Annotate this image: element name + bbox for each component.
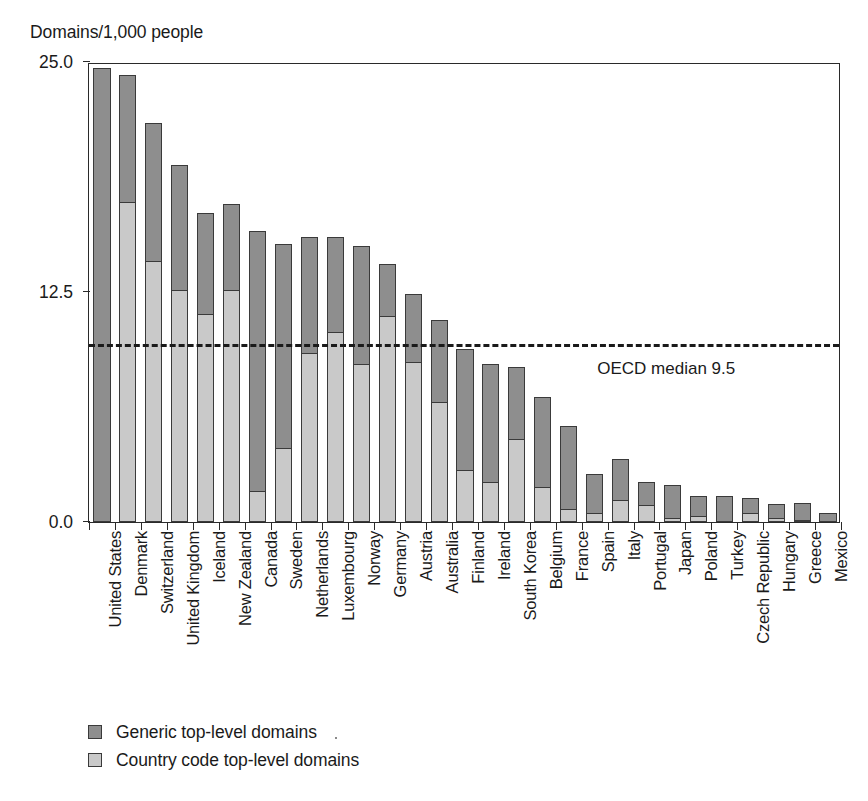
bar-segment-gtld [664, 485, 681, 518]
bar-ireland [482, 364, 499, 522]
x-tick-4 [193, 522, 194, 530]
bar-segment-cctld [171, 290, 188, 522]
x-axis-label-norway: Norway [366, 531, 383, 586]
x-tick-1 [115, 522, 116, 530]
x-tick-13 [426, 522, 427, 530]
bar-segment-cctld [586, 513, 603, 522]
bar-hungary [768, 504, 785, 522]
bar-greece [794, 503, 811, 522]
x-tick-24 [711, 522, 712, 530]
bar-segment-cctld [534, 487, 551, 522]
x-axis-label-text: Czech Republic [755, 531, 772, 644]
x-axis-label-belgium: Belgium [548, 531, 565, 589]
bar-segment-gtld [716, 496, 733, 522]
x-axis-label-text: Norway [366, 531, 383, 586]
bar-segment-gtld [586, 474, 603, 513]
x-axis-label-new-zealand: New Zealand [237, 531, 254, 626]
x-tick-27 [789, 522, 790, 530]
x-tick-25 [737, 522, 738, 530]
x-axis-label-turkey: Turkey [729, 531, 746, 580]
chart-legend: Generic top-level domains Country code t… [88, 718, 359, 774]
x-axis-label-text: United Kingdom [185, 531, 202, 646]
bar-france [560, 426, 577, 522]
bar-turkey [716, 496, 733, 522]
x-tick-6 [245, 522, 246, 530]
bar-segment-gtld [119, 75, 136, 202]
x-axis-label-text: Greece [807, 531, 824, 584]
x-axis-label-text: France [574, 531, 591, 581]
bar-south-korea [508, 367, 525, 522]
x-axis-label-italy: Italy [626, 531, 643, 560]
x-axis-label-hungary: Hungary [781, 531, 798, 592]
legend-swatch-cctld-icon [88, 753, 102, 767]
x-axis-label-text: Japan [677, 531, 694, 575]
x-axis-label-text: United States [107, 531, 124, 627]
bar-segment-gtld [145, 123, 162, 261]
bar-segment-cctld [638, 505, 655, 522]
x-axis-label-text: Netherlands [314, 531, 331, 618]
oecd-median-label: OECD median 9.5 [597, 359, 735, 379]
bar-segment-cctld [327, 332, 344, 522]
x-axis-label-canada: Canada [263, 531, 280, 588]
bar-united-states [93, 68, 110, 522]
bar-luxembourg [327, 237, 344, 522]
x-tick-26 [763, 522, 764, 530]
x-axis-label-text: Finland [470, 531, 487, 584]
x-axis-label-netherlands: Netherlands [314, 531, 331, 618]
x-axis-label-text: Australia [444, 531, 461, 593]
x-tick-10 [348, 522, 349, 530]
legend-swatch-gtld-icon [88, 725, 102, 739]
x-axis-label-south-korea: South Korea [522, 531, 539, 621]
x-tick-21 [634, 522, 635, 530]
bar-segment-cctld [431, 402, 448, 522]
x-axis-label-czech-republic: Czech Republic [755, 531, 772, 644]
x-axis-label-text: South Korea [522, 531, 539, 621]
x-axis-label-text: Belgium [548, 531, 565, 589]
bar-segment-cctld [145, 261, 162, 522]
x-tick-28 [815, 522, 816, 530]
bar-germany [379, 264, 396, 522]
bar-segment-cctld [664, 518, 681, 522]
x-axis-label-iceland: Iceland [211, 531, 228, 583]
scan-artifact-dot [335, 737, 337, 739]
y-tick-label-2: 25.0 [39, 52, 73, 73]
x-axis-labels: United StatesDenmarkSwitzerlandUnited Ki… [88, 531, 840, 711]
x-axis-label-text: Hungary [781, 531, 798, 592]
x-tick-15 [478, 522, 479, 530]
x-axis-label-text: Portugal [652, 531, 669, 591]
x-axis-label-text: Denmark [133, 531, 150, 597]
bar-segment-cctld [794, 520, 811, 522]
bar-sweden [275, 244, 292, 522]
bar-segment-gtld [93, 68, 110, 522]
bar-segment-cctld [768, 518, 785, 522]
bar-netherlands [301, 237, 318, 522]
x-tick-12 [400, 522, 401, 530]
x-axis-label-greece: Greece [807, 531, 824, 584]
x-axis-label-finland: Finland [470, 531, 487, 584]
x-tick-17 [530, 522, 531, 530]
bar-segment-gtld [612, 459, 629, 499]
bar-segment-gtld [456, 349, 473, 470]
bar-mexico [819, 513, 836, 522]
bar-segment-gtld [742, 498, 759, 513]
x-axis-label-text: Sweden [288, 531, 305, 589]
bar-segment-gtld [534, 397, 551, 487]
bar-segment-gtld [171, 165, 188, 290]
bar-segment-gtld [794, 503, 811, 520]
bar-segment-gtld [768, 504, 785, 519]
bar-segment-cctld [742, 513, 759, 522]
bar-segment-gtld [508, 367, 525, 439]
bar-iceland [197, 213, 214, 522]
bar-segment-gtld [405, 294, 422, 362]
x-axis-label-text: Austria [418, 531, 435, 581]
x-axis-label-france: France [574, 531, 591, 581]
x-axis-label-australia: Australia [444, 531, 461, 593]
bar-segment-gtld [301, 237, 318, 353]
bar-poland [690, 496, 707, 522]
x-tick-0 [89, 522, 90, 530]
x-axis-label-united-kingdom: United Kingdom [185, 531, 202, 646]
x-tick-9 [322, 522, 323, 530]
x-axis-label-japan: Japan [677, 531, 694, 575]
bar-austria [405, 294, 422, 522]
x-tick-29 [841, 522, 842, 530]
